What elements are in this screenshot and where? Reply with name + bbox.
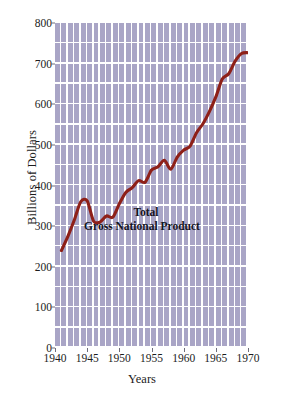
x-tick-mark <box>248 348 249 352</box>
x-tick-label: 1970 <box>226 352 270 364</box>
x-tick-mark <box>119 348 120 352</box>
x-tick-mark <box>152 348 153 352</box>
x-tick-mark <box>55 348 56 352</box>
x-axis-title: Years <box>0 372 284 387</box>
x-tick-mark <box>184 348 185 352</box>
x-tick-mark <box>216 348 217 352</box>
gnp-line-chart: Billions of Dollars 01002003004005006007… <box>0 0 284 401</box>
x-axis-tick-layer: 1940194519501955196019651970 <box>0 0 284 401</box>
x-tick-mark <box>87 348 88 352</box>
